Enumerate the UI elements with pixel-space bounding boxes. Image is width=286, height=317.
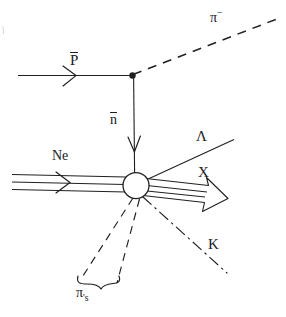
antiproton-beam-track — [18, 66, 132, 86]
label-x: X — [198, 165, 209, 180]
overbar-icon — [70, 52, 78, 53]
label-pions-suffix: 's — [83, 292, 89, 303]
label-antiproton: P — [70, 53, 78, 68]
lambda-track — [146, 140, 234, 181]
kaon-dash-dot-line — [143, 197, 227, 273]
pi-minus-dashed-line — [133, 19, 277, 75]
label-lambda: Λ — [196, 129, 207, 144]
kaon-track — [143, 197, 227, 273]
label-antiproton-text: P — [70, 52, 78, 68]
label-antineutron-text: n — [110, 112, 117, 127]
scan-artifact-mark — [3, 26, 4, 34]
pion-track-left-line — [81, 198, 133, 279]
annihilation-vertex-circle — [123, 173, 149, 199]
neon-beam-track — [12, 172, 126, 193]
pion-track-right-line — [117, 199, 140, 283]
label-neon: Ne — [52, 149, 68, 163]
label-pions: π's — [76, 286, 89, 303]
overbar-icon — [110, 112, 116, 113]
pion-tracks — [81, 198, 140, 283]
neon-beam-line-bottom — [12, 190, 126, 193]
antineutron-line — [134, 76, 135, 173]
particle-diagram: π− P n Ne Λ X K π's — [0, 0, 286, 317]
lambda-line — [146, 140, 234, 181]
neon-beam-line-top — [12, 175, 126, 178]
label-pi-minus-charge: − — [217, 7, 223, 18]
label-kaon: K — [208, 237, 219, 252]
pi-minus-track — [133, 19, 277, 75]
diagram-canvas — [0, 0, 286, 317]
label-pi-minus: π− — [210, 8, 223, 25]
antineutron-track — [128, 76, 140, 173]
x-track — [143, 178, 228, 212]
label-antineutron: n — [110, 113, 117, 127]
charge-exchange-vertex-dot — [129, 72, 135, 78]
